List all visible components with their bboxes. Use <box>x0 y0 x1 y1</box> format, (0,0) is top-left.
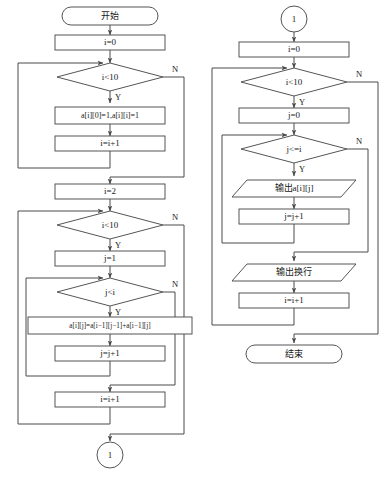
inc-i-c-label: i=i+1 <box>284 295 304 305</box>
start-label: 开始 <box>101 10 119 21</box>
cond-j-le-i-label: j<=i <box>285 144 302 154</box>
node-connector-out: 1 <box>97 442 123 468</box>
cond-i-lt10-c-no-label: N <box>356 69 362 79</box>
node-connector-in: 1 <box>281 6 307 32</box>
node-print-newline: 输出换行 <box>232 264 356 281</box>
cond-j-lt-i-label: j<i <box>104 287 116 297</box>
cond-i-lt10-a-yes-label: Y <box>115 92 121 102</box>
cond-j-le-i-yes-label: Y <box>299 164 305 174</box>
cond-j-lt-i-yes-label: Y <box>115 307 121 317</box>
node-inc-i-c: i=i+1 <box>239 293 349 308</box>
node-inc-j-a: j=j+1 <box>55 346 165 361</box>
inc-j-a-label: j=j+1 <box>99 348 120 358</box>
cond-i-lt10-a-label: i<10 <box>102 72 119 82</box>
cond-i-lt10-b-yes-label: Y <box>115 240 121 250</box>
pascal-sum-label: a[i][j]=a[i−1][j−1]+a[i−1][j] <box>69 322 150 330</box>
init-i-0-r-label: i=0 <box>288 44 301 54</box>
flowchart-diagram: 开始 i=0 i<10 N Y a[i][0]=1,a[i][i]=1 <box>0 0 389 479</box>
cond-i-lt10-c-yes-label: Y <box>299 97 305 107</box>
cond-j-lt-i-no-label: N <box>172 279 178 289</box>
node-init-i-2: i=2 <box>55 184 165 199</box>
node-init-i-0-r: i=0 <box>239 42 349 57</box>
node-inc-i-b: i=i+1 <box>55 392 165 407</box>
cond-i-lt10-b-label: i<10 <box>102 220 119 230</box>
set-edges-label: a[i][0]=1,a[i][i]=1 <box>81 111 139 120</box>
cond-i-lt10-b-no-label: N <box>172 212 178 222</box>
node-init-j-1: j=1 <box>55 251 165 266</box>
node-end: 结束 <box>246 345 342 363</box>
node-inc-j-b: j=j+1 <box>239 209 349 224</box>
init-i-0-label: i=0 <box>104 37 117 47</box>
edge-cond-jle-no <box>294 149 368 261</box>
node-cond-i-lt10-a: i<10 N Y <box>57 63 178 102</box>
node-cond-i-lt10-b: i<10 N Y <box>57 211 178 250</box>
node-set-edges: a[i][0]=1,a[i][i]=1 <box>55 107 165 124</box>
node-print-cell: 输出a[i][j] <box>232 180 356 197</box>
inc-j-b-label: j=j+1 <box>283 211 304 221</box>
print-cell-label: 输出a[i][j] <box>275 182 314 193</box>
left-column-group: 开始 i=0 i<10 N Y a[i][0]=1,a[i][i]=1 <box>18 7 192 468</box>
init-i-2-label: i=2 <box>104 186 116 196</box>
node-init-i-0: i=0 <box>55 35 165 50</box>
connector-out-label: 1 <box>108 450 113 460</box>
node-pascal-sum: a[i][j]=a[i−1][j−1]+a[i−1][j] <box>28 317 192 334</box>
node-cond-j-lt-i: j<i N Y <box>57 278 178 317</box>
init-j-1-label: j=1 <box>103 253 116 263</box>
node-start: 开始 <box>62 7 158 25</box>
right-column-group: 1 i=0 i<10 N Y j=0 j<=i <box>212 6 378 363</box>
node-cond-i-lt10-c: i<10 N Y <box>241 68 362 107</box>
connector-in-label: 1 <box>292 14 297 24</box>
cond-j-le-i-no-label: N <box>356 136 362 146</box>
flowchart-canvas: 开始 i=0 i<10 N Y a[i][0]=1,a[i][i]=1 <box>0 0 389 479</box>
print-newline-label: 输出换行 <box>276 266 312 277</box>
cond-i-lt10-c-label: i<10 <box>286 77 303 87</box>
edge-cond-a-no <box>110 77 184 184</box>
inc-i-b-label: i=i+1 <box>100 394 120 404</box>
end-label: 结束 <box>285 348 303 359</box>
inc-i-a-label: i=i+1 <box>100 138 120 148</box>
init-j-0-label: j=0 <box>287 110 301 120</box>
node-init-j-0: j=0 <box>239 108 349 123</box>
cond-i-lt10-a-no-label: N <box>172 64 178 74</box>
node-inc-i-a: i=i+1 <box>55 136 165 151</box>
node-cond-j-le-i: j<=i N Y <box>241 135 362 174</box>
